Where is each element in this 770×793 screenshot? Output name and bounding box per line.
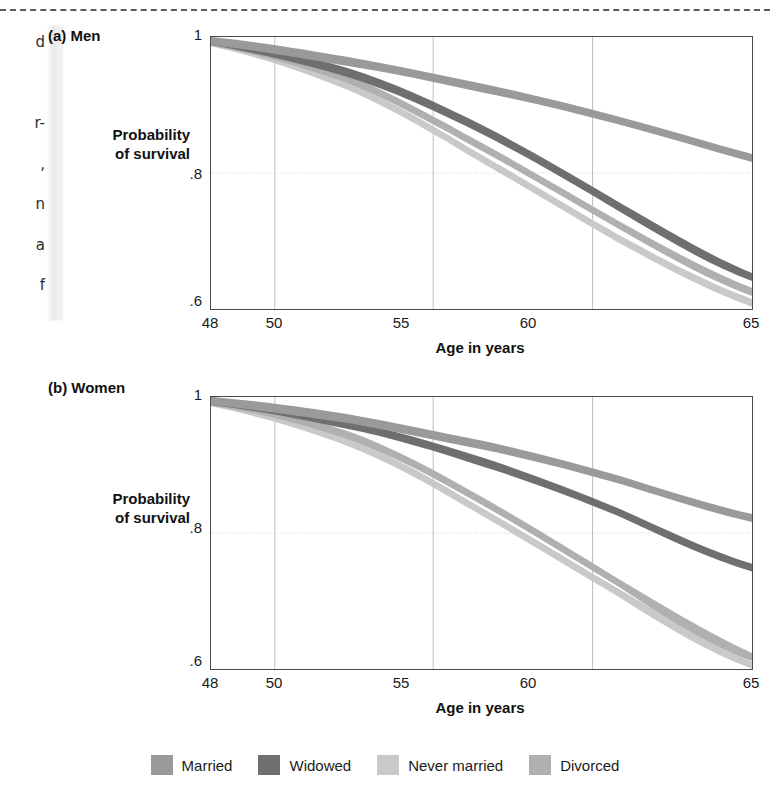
- plot-area-women[interactable]: [210, 396, 753, 670]
- y-axis-title-women: Probability of survival: [70, 489, 190, 527]
- plot-svg-women: [211, 397, 752, 669]
- panel-label-women: (b) Women: [48, 379, 125, 396]
- legend-swatch-never-married-icon: [377, 755, 399, 775]
- legend-item-never-married[interactable]: Never married: [377, 755, 503, 775]
- x-tick-women-65: 65: [735, 674, 767, 691]
- legend-label-never-married: Never married: [408, 757, 503, 774]
- legend-item-widowed[interactable]: Widowed: [258, 755, 351, 775]
- x-tick-women-55: 55: [385, 674, 417, 691]
- y-axis-title-men: Probability of survival: [70, 125, 190, 163]
- y-tick-women-06: .6: [178, 652, 202, 669]
- panel-label-men: (a) Men: [48, 27, 101, 44]
- chart-legend: Married Widowed Never married Divorced: [0, 748, 770, 782]
- y-tick-women-08: .8: [178, 519, 202, 536]
- legend-item-divorced[interactable]: Divorced: [529, 755, 619, 775]
- x-tick-men-65: 65: [735, 314, 767, 331]
- x-tick-men-60: 60: [512, 314, 544, 331]
- x-tick-men-48: 48: [194, 314, 226, 331]
- series-bands-men: [211, 37, 752, 307]
- legend-label-married: Married: [182, 757, 233, 774]
- caption-box-edge: [47, 26, 61, 320]
- x-tick-women-50: 50: [258, 674, 290, 691]
- x-axis-title-women: Age in years: [380, 699, 580, 716]
- x-tick-women-48: 48: [194, 674, 226, 691]
- clipped-caption-text: d r- , n a f: [0, 22, 45, 306]
- x-tick-men-50: 50: [258, 314, 290, 331]
- legend-swatch-married-icon: [151, 755, 173, 775]
- band-divorced-men: [211, 38, 752, 296]
- y-tick-women-1: 1: [178, 386, 202, 403]
- x-axis-title-men: Age in years: [380, 339, 580, 356]
- plot-area-men[interactable]: [210, 36, 753, 310]
- y-tick-men-08: .8: [178, 165, 202, 182]
- figure-root: d r- , n a f (a) Men Probability of surv…: [0, 0, 770, 793]
- plot-svg-men: [211, 37, 752, 309]
- clipped-caption-column: d r- , n a f: [0, 22, 47, 322]
- legend-label-widowed: Widowed: [289, 757, 351, 774]
- legend-label-divorced: Divorced: [560, 757, 619, 774]
- legend-item-married[interactable]: Married: [151, 755, 233, 775]
- x-tick-men-55: 55: [385, 314, 417, 331]
- legend-swatch-widowed-icon: [258, 755, 280, 775]
- dashed-separator-rule: [0, 9, 770, 11]
- x-tick-women-60: 60: [512, 674, 544, 691]
- legend-swatch-divorced-icon: [529, 755, 551, 775]
- y-tick-men-1: 1: [178, 26, 202, 43]
- y-tick-men-06: .6: [178, 292, 202, 309]
